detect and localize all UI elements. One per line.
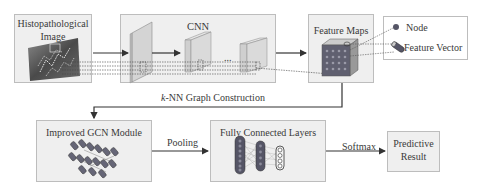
fully-connected-network-icon	[235, 136, 284, 174]
legend-node-icon	[393, 24, 399, 30]
histopathology-image-icon	[28, 38, 80, 81]
feature-map-cube-icon	[322, 39, 358, 76]
cnn-layer-3-icon	[240, 38, 267, 72]
legend-feature-vector-icon	[391, 41, 406, 54]
gcn-graph-icon	[68, 139, 119, 178]
diagram-graphics	[0, 0, 484, 191]
